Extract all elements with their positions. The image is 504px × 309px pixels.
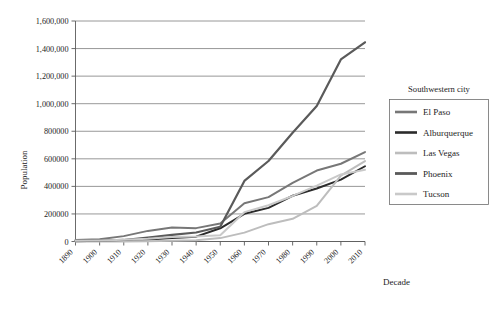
y-tick-label: 1,400,000 (36, 45, 69, 54)
y-tick-label: 0 (64, 238, 68, 247)
legend-label-las-vegas: Las Vegas (423, 148, 460, 158)
series-lines (76, 42, 366, 241)
y-tick-label: 1,000,000 (36, 100, 69, 109)
x-tick-label: 1950 (202, 248, 220, 266)
y-tick-label: 1,200,000 (36, 72, 69, 81)
y-axis-ticks: 02000004000006000008000001,000,0001,200,… (36, 17, 76, 247)
series-line-las-vegas (76, 161, 366, 241)
y-tick-label: 400000 (44, 182, 69, 191)
legend-title: Southwestern city (408, 84, 471, 94)
chart-figure: 02000004000006000008000001,000,0001,200,… (0, 0, 504, 309)
legend-label-el-paso: El Paso (423, 107, 451, 117)
series-line-phoenix (76, 42, 366, 241)
x-tick-label: 1980 (274, 248, 292, 266)
x-tick-label: 1900 (81, 248, 99, 266)
y-tick-label: 200000 (44, 210, 69, 219)
y-axis-title: Population (19, 150, 29, 190)
legend-entries: El PasoAlburquerqueLas VegasPhoenixTucso… (395, 107, 473, 199)
x-tick-label: 2010 (346, 248, 364, 266)
y-tick-label: 600000 (44, 155, 69, 164)
legend-label-alburquerque: Alburquerque (423, 128, 473, 138)
x-tick-label: 2000 (322, 248, 340, 266)
x-axis-title: Decade (383, 277, 410, 287)
legend-label-tucson: Tucson (423, 189, 450, 199)
x-axis-ticks: 1890190019101920193019401950196019701980… (57, 242, 365, 266)
y-tick-label: 800000 (44, 127, 69, 136)
series-line-alburquerque (76, 166, 366, 241)
population-line-chart: 02000004000006000008000001,000,0001,200,… (0, 0, 504, 309)
x-tick-label: 1920 (129, 248, 147, 266)
series-line-tucson (76, 170, 366, 241)
x-tick-label: 1940 (178, 248, 196, 266)
x-tick-label: 1910 (105, 248, 123, 266)
x-tick-label: 1970 (250, 248, 268, 266)
x-tick-label: 1890 (57, 248, 75, 266)
gridlines (76, 21, 366, 242)
x-tick-label: 1990 (298, 248, 316, 266)
x-tick-label: 1930 (153, 248, 171, 266)
legend-label-phoenix: Phoenix (423, 169, 453, 179)
x-tick-label: 1960 (226, 248, 244, 266)
y-tick-label: 1,600,000 (36, 17, 69, 26)
